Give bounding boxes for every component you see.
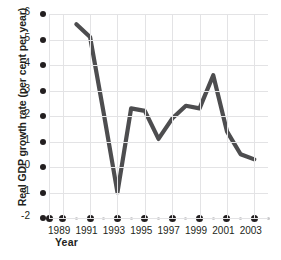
plot-area — [49, 14, 268, 218]
y-tick-label: 6 — [24, 6, 30, 17]
y-tick-dot — [40, 11, 46, 17]
gridline-vertical — [49, 14, 50, 218]
y-tick-label: 1 — [24, 134, 30, 145]
y-tick-dot — [40, 113, 46, 119]
y-tick-label: 2 — [24, 108, 30, 119]
x-tick-label: 1999 — [185, 225, 207, 236]
y-tick-dot — [40, 164, 46, 170]
y-tick-label: 0 — [24, 159, 30, 170]
x-tick-label: 2001 — [212, 225, 234, 236]
x-tick-label: 1989 — [48, 225, 70, 236]
gridline-vertical — [254, 14, 255, 218]
x-tick-label: 2003 — [240, 225, 262, 236]
y-tick-dot — [40, 139, 46, 145]
gridline-vertical — [90, 14, 91, 218]
gridline-horizontal — [49, 14, 268, 15]
gridline-vertical — [117, 14, 118, 218]
gridline-horizontal — [49, 40, 268, 41]
gridline-horizontal — [49, 65, 268, 66]
x-tick-label: 1995 — [130, 225, 152, 236]
y-tick-dot — [40, 190, 46, 196]
gridline-horizontal — [49, 116, 268, 117]
y-tick-dot — [40, 62, 46, 68]
gridline-horizontal — [49, 167, 268, 168]
gridline-vertical — [172, 14, 173, 218]
y-tick-label: 3 — [24, 83, 30, 94]
gridline-vertical — [63, 14, 64, 218]
y-tick-label: -2 — [21, 210, 30, 221]
x-axis-title: Year — [55, 236, 78, 248]
y-tick-label: 5 — [24, 32, 30, 43]
gridline-vertical — [145, 14, 146, 218]
gdp-growth-line-chart: Real GDP growth rate (per cent per year)… — [0, 0, 281, 260]
y-tick-label: 4 — [24, 57, 30, 68]
x-tick-label: 1993 — [103, 225, 125, 236]
gridline-horizontal — [49, 193, 268, 194]
gridline-vertical — [227, 14, 228, 218]
gridline-horizontal — [49, 91, 268, 92]
y-tick-dot — [40, 37, 46, 43]
x-tick-label: 1991 — [75, 225, 97, 236]
y-tick-label: -1 — [21, 185, 30, 196]
gridline-horizontal — [49, 142, 268, 143]
gridline-vertical — [200, 14, 201, 218]
y-tick-dot — [40, 88, 46, 94]
gridline-horizontal — [49, 218, 268, 219]
x-tick-label: 1997 — [158, 225, 180, 236]
